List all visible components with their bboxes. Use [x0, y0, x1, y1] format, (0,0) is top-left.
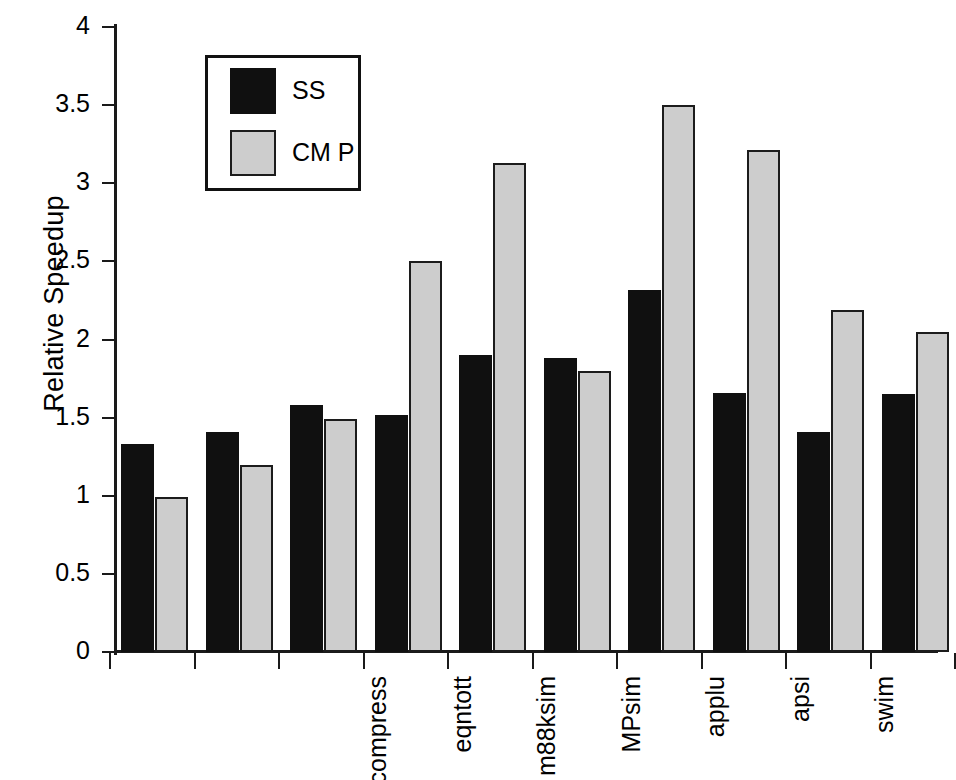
bar-ss: [459, 355, 492, 652]
bar-cmp: [578, 371, 611, 652]
bar-group: [628, 27, 698, 652]
x-tick-label: applu: [701, 676, 730, 780]
bar-cmp: [831, 310, 864, 652]
y-tick-label: 3: [6, 167, 90, 196]
x-tick: [194, 653, 196, 669]
x-tick-label: compress: [363, 676, 392, 780]
x-tick-label: m88ksim: [532, 676, 561, 780]
x-tick: [447, 653, 449, 669]
y-tick-label: 2: [6, 324, 90, 353]
x-tick-label: apsi: [786, 676, 815, 780]
x-tick: [785, 653, 787, 669]
bar-cmp: [240, 465, 273, 653]
legend-swatch-ss: [230, 68, 276, 114]
bar-group: [459, 27, 529, 652]
bar-cmp: [324, 419, 357, 652]
bar-ss: [713, 393, 746, 652]
bar-cmp: [747, 150, 780, 652]
x-tick: [870, 653, 872, 669]
bar-cmp: [662, 105, 695, 652]
x-tick: [278, 653, 280, 669]
y-tick-label: 0: [6, 636, 90, 665]
bar-ss: [375, 415, 408, 653]
x-tick: [363, 653, 365, 669]
legend-label-ss: SS: [292, 76, 325, 105]
legend-swatch-cmp: [230, 130, 276, 176]
bar-group: [121, 27, 191, 652]
y-tick-label: 1.5: [6, 402, 90, 431]
bar-ss: [544, 358, 577, 652]
x-tick-label: swim: [870, 676, 899, 780]
bar-group: [797, 27, 867, 652]
bar-ss: [628, 290, 661, 653]
bar-group: [544, 27, 614, 652]
bar-ss: [797, 432, 830, 652]
y-tick: [102, 417, 115, 419]
bar-group: [713, 27, 783, 652]
y-tick: [102, 495, 115, 497]
bar-ss: [290, 405, 323, 652]
y-tick: [102, 573, 115, 575]
y-tick: [102, 182, 115, 184]
bar-ss: [882, 394, 915, 652]
x-tick: [701, 653, 703, 669]
y-tick-label: 0.5: [6, 558, 90, 587]
x-tick-label: eqntott: [448, 676, 477, 780]
x-tick-label: MPsim: [617, 676, 646, 780]
bar-cmp: [493, 163, 526, 652]
x-tick: [532, 653, 534, 669]
bar-cmp: [916, 332, 949, 652]
bar-cmp: [409, 261, 442, 652]
y-tick-label: 2.5: [6, 245, 90, 274]
y-tick: [102, 104, 115, 106]
y-tick: [102, 26, 115, 28]
legend-item-ss: SS: [208, 68, 358, 124]
x-tick: [616, 653, 618, 669]
legend-label-cmp: CM P: [292, 138, 355, 167]
y-tick-label: 1: [6, 480, 90, 509]
x-tick: [109, 653, 111, 669]
bar-cmp: [155, 497, 188, 652]
chart-legend: SS CM P: [205, 55, 361, 191]
bar-chart: Relative Speedup 00.511.522.533.54 compr…: [0, 0, 956, 780]
bar-ss: [206, 432, 239, 652]
bar-group: [882, 27, 952, 652]
bar-group: [375, 27, 445, 652]
legend-item-cmp: CM P: [208, 130, 358, 186]
bar-ss: [121, 444, 154, 652]
y-tick-label: 4: [6, 11, 90, 40]
y-tick-label: 3.5: [6, 89, 90, 118]
y-tick: [102, 339, 115, 341]
y-tick: [102, 260, 115, 262]
